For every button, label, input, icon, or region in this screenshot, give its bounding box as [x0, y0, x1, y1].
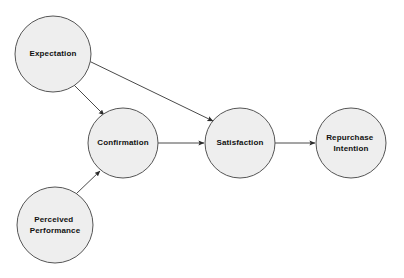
node-confirmation[interactable]: Confirmation — [88, 108, 158, 178]
edge-expectation-to-confirmation — [74, 85, 104, 115]
edge-perceived-performance-to-confirmation — [76, 171, 100, 194]
node-expectation-label: Expectation — [30, 49, 77, 58]
node-confirmation-label: Confirmation — [97, 138, 149, 147]
node-repurchase-intention-shape[interactable] — [316, 108, 386, 178]
node-expectation[interactable]: Expectation — [15, 16, 91, 92]
model-diagram: Expectation Perceived Performance Confir… — [0, 0, 404, 278]
node-repurchase-intention[interactable]: Repurchase Intention — [316, 108, 386, 178]
node-satisfaction[interactable]: Satisfaction — [205, 108, 275, 178]
node-perceived-performance[interactable]: Perceived Performance — [17, 187, 93, 263]
nodes-group: Expectation Perceived Performance Confir… — [15, 16, 386, 263]
node-satisfaction-label: Satisfaction — [216, 138, 263, 147]
node-perceived-performance-shape[interactable] — [17, 187, 93, 263]
diagram-canvas: Expectation Perceived Performance Confir… — [0, 0, 404, 278]
